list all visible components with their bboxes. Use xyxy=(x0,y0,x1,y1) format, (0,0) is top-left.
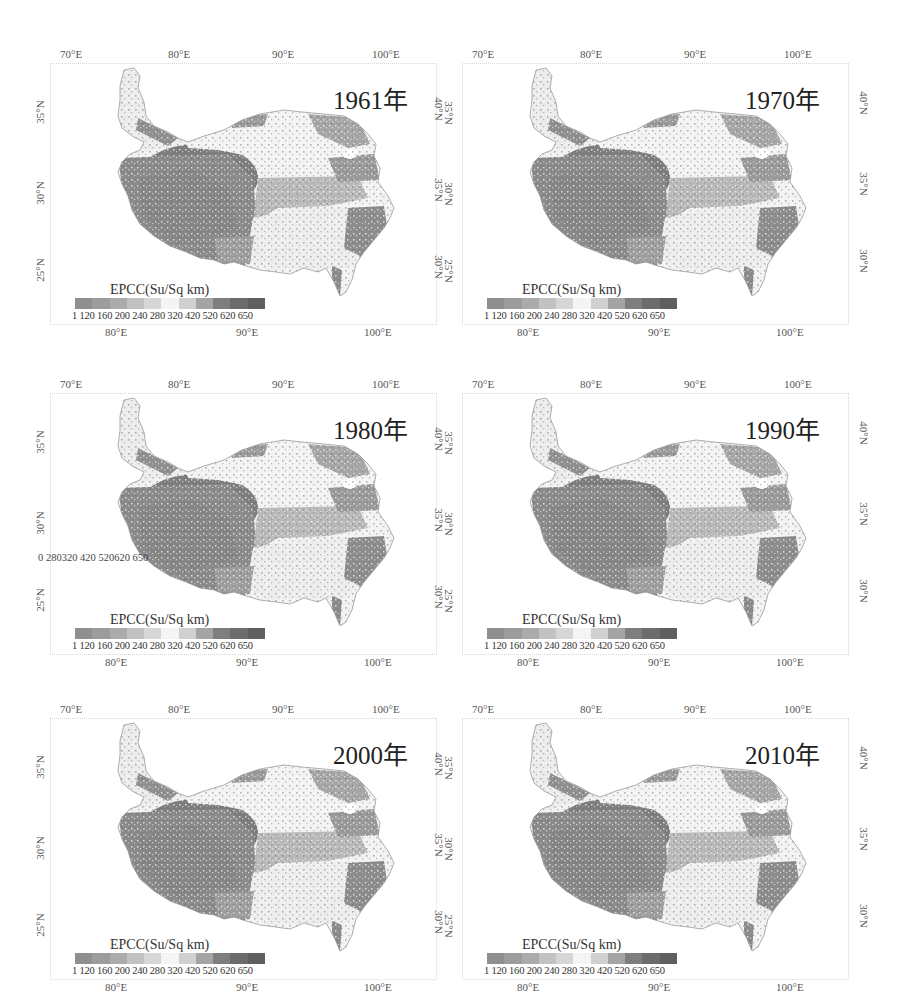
legend-colorbar xyxy=(487,628,677,639)
legend-title: EPCC(Su/Sq km) xyxy=(110,612,209,628)
right-axis-tick: 35°N xyxy=(859,827,869,850)
legend-swatch xyxy=(161,628,178,639)
right-axis-tick: 30°N xyxy=(859,904,869,927)
legend-colorbar xyxy=(487,953,677,964)
year-label: 1961年 xyxy=(333,80,408,116)
legend-swatch xyxy=(573,298,590,309)
right-axis-tick: 35°N xyxy=(859,502,869,525)
legend-swatch xyxy=(110,953,127,964)
legend-swatch xyxy=(504,953,521,964)
legend-swatch xyxy=(591,953,608,964)
legend-swatch xyxy=(179,953,196,964)
legend-swatch xyxy=(660,298,677,309)
legend-swatch xyxy=(230,953,247,964)
legend-title: EPCC(Su/Sq km) xyxy=(110,937,209,953)
right-axis-tick: 40°N xyxy=(859,421,869,444)
legend-title: EPCC(Su/Sq km) xyxy=(522,282,621,298)
legend-tick-labels: 1 120 160 200 240 280 320 420 520 620 65… xyxy=(484,640,665,651)
legend-swatch xyxy=(522,298,539,309)
legend-swatch xyxy=(248,628,265,639)
legend-swatch xyxy=(213,298,230,309)
year-label: 1980年 xyxy=(333,410,408,446)
map-panel-5: 70°E 80°E 90°E 100°E 80°E 90°E 100°E 35°… xyxy=(0,655,440,985)
map-panel-2: 70°E 80°E 90°E 100°E 80°E 90°E 100°E 35°… xyxy=(412,0,852,330)
legend-swatch xyxy=(625,628,642,639)
legend-swatch xyxy=(127,298,144,309)
legend-swatch xyxy=(248,953,265,964)
legend: EPCC(Su/Sq km) 1 120 160 200 240 280 320… xyxy=(482,612,702,652)
legend-swatch xyxy=(591,298,608,309)
legend: EPCC(Su/Sq km) 1 120 160 200 240 280 320… xyxy=(482,937,702,977)
legend-swatch xyxy=(161,298,178,309)
legend-swatch xyxy=(556,298,573,309)
legend-swatch xyxy=(75,298,92,309)
legend-swatch xyxy=(608,953,625,964)
legend-swatch xyxy=(127,953,144,964)
legend-colorbar xyxy=(75,298,265,309)
legend-swatch xyxy=(196,953,213,964)
legend-swatch xyxy=(230,298,247,309)
legend-swatch xyxy=(556,628,573,639)
legend-swatch xyxy=(144,628,161,639)
legend-swatch xyxy=(230,628,247,639)
map-panel-6: 70°E 80°E 90°E 100°E 80°E 90°E 100°E 35°… xyxy=(412,655,852,985)
legend-swatch xyxy=(504,298,521,309)
right-axis-tick: 30°N xyxy=(859,579,869,602)
legend-title: EPCC(Su/Sq km) xyxy=(110,282,209,298)
legend-tick-labels: 1 120 160 200 240 280 320 420 520 620 65… xyxy=(72,965,253,976)
legend-swatch xyxy=(660,953,677,964)
legend-swatch xyxy=(642,953,659,964)
legend-swatch xyxy=(539,628,556,639)
right-axis-tick: 40°N xyxy=(859,746,869,769)
legend-swatch xyxy=(539,953,556,964)
legend-swatch xyxy=(539,298,556,309)
legend-swatch xyxy=(573,628,590,639)
legend: EPCC(Su/Sq km) 1 120 160 200 240 280 320… xyxy=(70,612,290,652)
right-axis-tick: 30°N xyxy=(859,249,869,272)
legend-tick-labels: 1 120 160 200 240 280 320 420 520 620 65… xyxy=(484,310,665,321)
legend-swatch xyxy=(75,953,92,964)
legend-swatch xyxy=(573,953,590,964)
map-panel-4: 70°E 80°E 90°E 100°E 80°E 90°E 100°E 35°… xyxy=(412,330,852,660)
legend-swatch xyxy=(144,953,161,964)
legend-swatch xyxy=(608,298,625,309)
legend-swatch xyxy=(213,628,230,639)
legend: EPCC(Su/Sq km) 1 120 160 200 240 280 320… xyxy=(70,282,290,322)
legend: EPCC(Su/Sq km) 1 120 160 200 240 280 320… xyxy=(482,282,702,322)
legend-swatch xyxy=(179,628,196,639)
legend-swatch xyxy=(522,628,539,639)
legend-swatch xyxy=(487,298,504,309)
legend-swatch xyxy=(248,298,265,309)
legend-swatch xyxy=(75,628,92,639)
legend-swatch xyxy=(487,628,504,639)
legend-tick-labels: 1 120 160 200 240 280 320 420 520 620 65… xyxy=(484,965,665,976)
legend-tick-labels: 1 120 160 200 240 280 320 420 520 620 65… xyxy=(72,640,253,651)
legend-swatch xyxy=(591,628,608,639)
legend-swatch xyxy=(504,628,521,639)
stray-legend-fragment: 0 280320 420 520620 650 xyxy=(38,552,148,563)
year-label: 2010年 xyxy=(745,735,820,771)
legend-swatch xyxy=(608,628,625,639)
year-label: 2000年 xyxy=(333,735,408,771)
legend-colorbar xyxy=(75,628,265,639)
legend-swatch xyxy=(213,953,230,964)
legend-swatch xyxy=(642,628,659,639)
legend-swatch xyxy=(92,628,109,639)
legend: EPCC(Su/Sq km) 1 120 160 200 240 280 320… xyxy=(70,937,290,977)
legend-title: EPCC(Su/Sq km) xyxy=(522,612,621,628)
legend-swatch xyxy=(127,628,144,639)
legend-swatch xyxy=(179,298,196,309)
right-axis-tick: 35°N xyxy=(859,172,869,195)
map-panel-3: 70°E 80°E 90°E 100°E 80°E 90°E 100°E 35°… xyxy=(0,330,440,660)
map-panel-1: 70°E 80°E 90°E 100°E 80°E 90°E 100°E 35°… xyxy=(0,0,440,330)
legend-title: EPCC(Su/Sq km) xyxy=(522,937,621,953)
legend-swatch xyxy=(196,628,213,639)
right-axis-tick: 40°N xyxy=(859,91,869,114)
legend-swatch xyxy=(625,953,642,964)
legend-swatch xyxy=(110,628,127,639)
legend-swatch xyxy=(161,953,178,964)
year-label: 1970年 xyxy=(745,80,820,116)
legend-swatch xyxy=(660,628,677,639)
legend-swatch xyxy=(522,953,539,964)
legend-colorbar xyxy=(75,953,265,964)
